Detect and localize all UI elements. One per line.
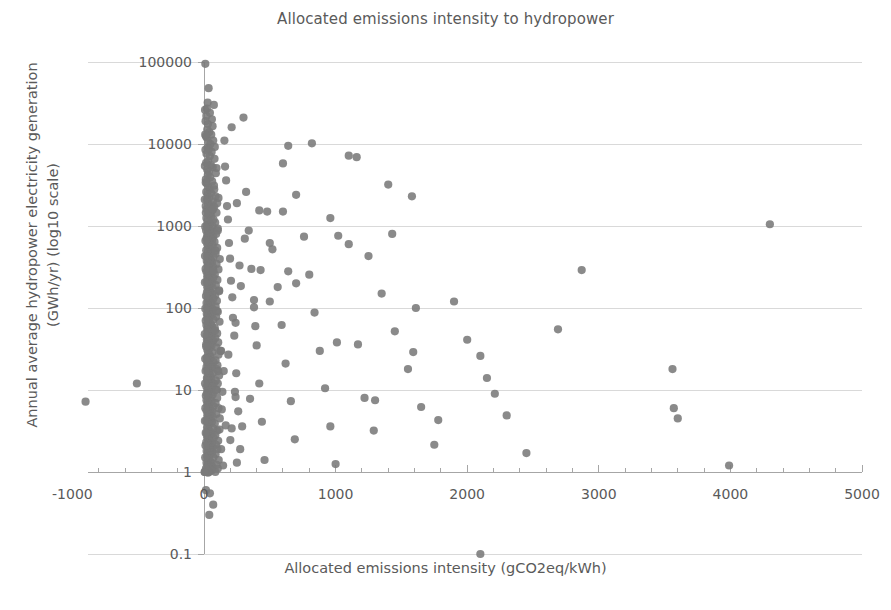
- scatter-chart-figure: Allocated emissions intensity to hydropo…: [0, 0, 891, 610]
- data-point: [278, 321, 286, 329]
- data-point: [332, 460, 340, 468]
- data-point: [201, 468, 209, 476]
- data-point: [201, 404, 209, 412]
- data-point: [215, 287, 223, 295]
- data-point: [211, 143, 219, 151]
- data-point: [201, 367, 209, 375]
- data-point: [326, 214, 334, 222]
- data-point: [201, 60, 209, 68]
- data-point: [236, 445, 244, 453]
- data-point: [476, 550, 484, 558]
- data-point: [491, 390, 499, 398]
- data-point: [201, 237, 209, 245]
- x-tick-label: 2000: [449, 486, 485, 502]
- data-point: [201, 252, 209, 260]
- data-point: [205, 84, 213, 92]
- data-point: [209, 501, 217, 509]
- data-point: [222, 176, 230, 184]
- data-point: [212, 386, 220, 394]
- data-point: [220, 137, 228, 145]
- data-point: [221, 163, 229, 171]
- data-point: [384, 180, 392, 188]
- data-point: [310, 308, 318, 316]
- data-point: [205, 511, 213, 519]
- data-point: [230, 332, 238, 340]
- data-point: [201, 379, 209, 387]
- data-point: [345, 240, 353, 248]
- data-point: [213, 445, 221, 453]
- data-point: [263, 207, 271, 215]
- data-point: [274, 283, 282, 291]
- data-point: [201, 195, 209, 203]
- data-point: [292, 191, 300, 199]
- data-point: [364, 252, 372, 260]
- data-point: [201, 265, 209, 273]
- data-point: [209, 205, 217, 213]
- data-point: [81, 398, 89, 406]
- data-point: [226, 255, 234, 263]
- data-point: [370, 426, 378, 434]
- data-point: [201, 453, 209, 461]
- data-point: [214, 367, 222, 375]
- data-point: [202, 178, 210, 186]
- data-point: [229, 314, 237, 322]
- data-point: [219, 461, 227, 469]
- data-point: [212, 164, 220, 172]
- data-point: [201, 305, 209, 313]
- data-point: [201, 278, 209, 286]
- data-point: [326, 422, 334, 430]
- data-point: [242, 188, 250, 196]
- data-point: [201, 162, 209, 170]
- data-point: [225, 239, 233, 247]
- data-point: [670, 404, 678, 412]
- data-point: [766, 220, 774, 228]
- x-tick-label: 5000: [844, 486, 880, 502]
- data-point: [321, 384, 329, 392]
- data-point: [258, 418, 266, 426]
- data-point: [279, 207, 287, 215]
- data-point: [255, 206, 263, 214]
- data-point: [284, 267, 292, 275]
- data-point: [450, 297, 458, 305]
- data-point: [725, 461, 733, 469]
- data-point: [334, 232, 342, 240]
- data-point: [235, 261, 243, 269]
- data-point: [234, 407, 242, 415]
- data-point: [291, 435, 299, 443]
- data-point: [201, 441, 209, 449]
- data-point: [202, 342, 210, 350]
- y-tick-label: 100: [96, 300, 192, 316]
- data-point: [266, 297, 274, 305]
- data-point: [201, 330, 209, 338]
- data-point: [201, 417, 209, 425]
- data-point: [201, 131, 209, 139]
- data-point: [231, 388, 239, 396]
- data-point: [483, 374, 491, 382]
- data-point: [412, 304, 420, 312]
- data-point: [216, 347, 224, 355]
- data-point: [578, 266, 586, 274]
- data-point: [214, 226, 222, 234]
- data-point: [404, 365, 412, 373]
- data-point: [300, 233, 308, 241]
- data-point: [345, 152, 353, 160]
- data-point: [305, 271, 313, 279]
- data-point: [430, 441, 438, 449]
- data-point: [218, 405, 226, 413]
- data-point: [223, 202, 231, 210]
- data-point: [522, 449, 530, 457]
- y-tick-label: 10000: [96, 136, 192, 152]
- data-point: [232, 369, 240, 377]
- data-point: [210, 185, 218, 193]
- data-point: [209, 267, 217, 275]
- x-tick-label: 1000: [318, 486, 354, 502]
- data-point: [239, 113, 247, 121]
- data-point: [213, 307, 221, 315]
- data-point: [378, 289, 386, 297]
- data-point: [388, 230, 396, 238]
- data-point: [237, 282, 245, 290]
- data-point: [238, 422, 246, 430]
- data-point: [354, 340, 362, 348]
- data-point: [256, 266, 264, 274]
- data-point: [268, 245, 276, 253]
